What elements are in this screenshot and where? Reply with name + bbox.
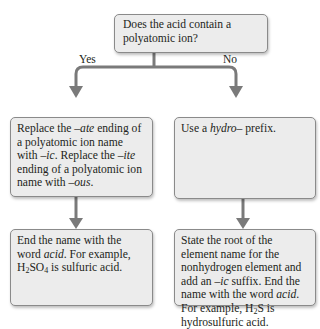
text: . For example,	[64, 248, 131, 261]
yes-label: Yes	[79, 53, 96, 65]
text: – prefix.	[237, 122, 276, 135]
text: –ic	[214, 275, 228, 288]
yes-step2-box: End the name with the word acid. For exa…	[10, 229, 153, 306]
text: Replace the	[17, 122, 74, 135]
no-step2-box: State the root of the element name for t…	[174, 229, 316, 306]
text: . Replace the	[55, 149, 118, 162]
formula: SO	[29, 261, 44, 274]
text: hydro	[210, 122, 237, 135]
text: –ous	[69, 176, 91, 189]
text: –ate	[74, 122, 94, 135]
text: –ic	[41, 149, 55, 162]
no-label: No	[223, 53, 237, 65]
text: Use a	[181, 122, 210, 135]
question-text: Does the acid contain a polyatomic ion?	[123, 18, 231, 45]
no-step1-box: Use a hydro– prefix.	[174, 117, 316, 199]
text: is sulfuric acid.	[48, 261, 122, 274]
question-box: Does the acid contain a polyatomic ion?	[114, 14, 268, 53]
text: –ite	[118, 149, 135, 162]
yes-step1-box: Replace the –ate ending of a polyatomic …	[10, 117, 153, 197]
text: acid	[44, 248, 64, 261]
text: .	[90, 176, 93, 189]
text: acid	[276, 288, 296, 301]
